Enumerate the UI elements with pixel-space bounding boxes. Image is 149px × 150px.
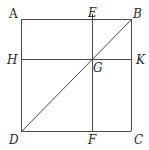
label-a: A — [8, 7, 18, 21]
label-c: C — [134, 133, 143, 147]
geometry-diagram: A E B H G K D F C — [0, 0, 149, 150]
label-g: G — [93, 61, 103, 75]
label-d: D — [8, 133, 19, 147]
label-k: K — [135, 53, 146, 67]
label-h: H — [6, 53, 18, 67]
label-f: F — [87, 133, 97, 147]
diagonal-db — [22, 20, 132, 132]
label-e: E — [87, 6, 97, 20]
label-b: B — [132, 7, 142, 21]
